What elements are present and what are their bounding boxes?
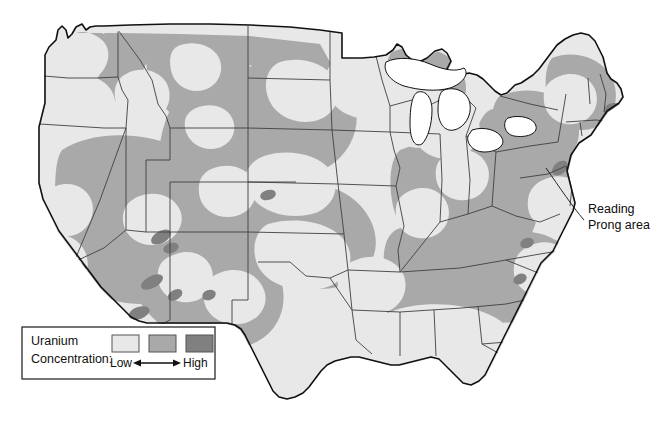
lake-ontario [505,116,537,136]
legend-title-line1: Uranium [31,334,78,348]
map-svg: Reading Prong area Uranium Concentration… [0,0,660,425]
legend-swatch-medium [149,335,176,352]
legend-title-line2: Concentration: [31,352,112,366]
legend-high-label: High [183,356,208,370]
legend-swatch-low [112,335,139,352]
reading-prong-label-line2: Prong area [588,218,650,232]
low-inclusion-colorado-basin [199,166,256,217]
uranium-concentration-map: Reading Prong area Uranium Concentration… [0,0,660,425]
low-inclusion-ohio-north [436,150,489,200]
low-inclusion-idaho-west [115,70,170,123]
legend-swatch-high [186,335,213,352]
low-inclusion-newengland-low [544,74,597,124]
legend: Uranium Concentration: Low High [22,327,215,379]
legend-low-label: Low [110,356,132,370]
reading-prong-label-line1: Reading [588,202,635,216]
